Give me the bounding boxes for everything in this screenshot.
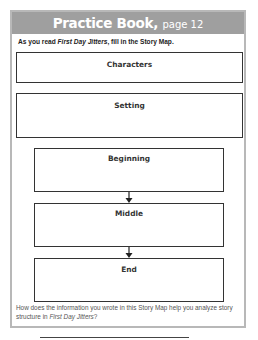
instruction-book-title: First Day Jitters [58,38,108,45]
middle-label: Middle [35,209,223,218]
instructions: As you read First Day Jitters, fill in t… [18,38,174,45]
end-box[interactable]: End [34,258,224,302]
instruction-prefix: As you read [18,38,58,45]
question-suffix: ? [94,313,98,320]
characters-label: Characters [17,60,242,69]
page-number: page 12 [162,19,203,30]
characters-box[interactable]: Characters [16,52,243,83]
instruction-suffix: , fill in the Story Map. [107,38,173,45]
page-title: Practice Book, page 12 [12,12,244,34]
middle-box[interactable]: Middle [34,203,224,247]
setting-label: Setting [17,101,242,110]
title-text: Practice Book, [53,15,158,31]
question-book-title: First Day Jitters [49,313,93,320]
beginning-label: Beginning [35,154,223,163]
setting-box[interactable]: Setting [16,93,243,138]
beginning-box[interactable]: Beginning [34,148,224,192]
reflection-question: How does the information you wrote in th… [16,303,238,321]
practice-book-frame: Practice Book, page 12 As you read First… [10,10,246,328]
answer-line[interactable] [40,337,189,338]
end-label: End [35,265,223,274]
